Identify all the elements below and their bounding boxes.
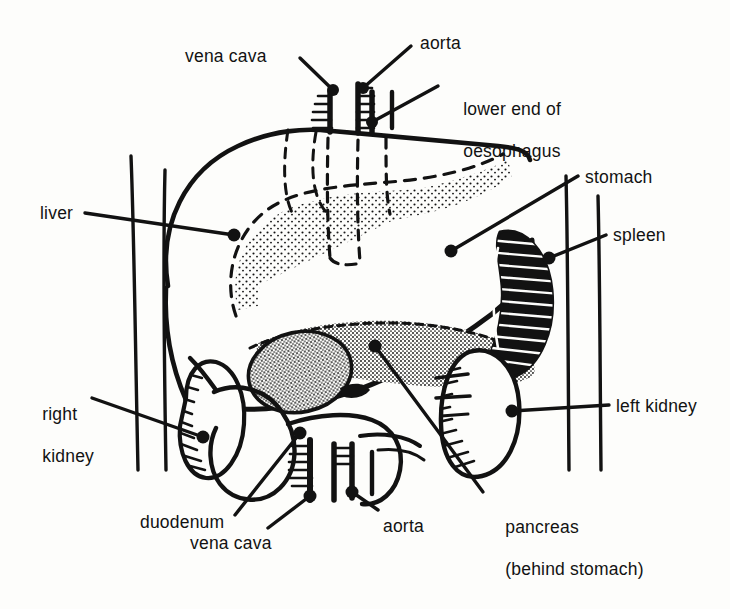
- label-oesophagus-line1: lower end of: [463, 99, 561, 119]
- label-duodenum: duodenum: [140, 512, 224, 533]
- leader-vena-cava-top: [300, 58, 339, 96]
- label-lower-end-of-oesophagus: lower end of oesophagus: [443, 78, 561, 183]
- label-vena-cava-bottom: vena cava: [190, 533, 272, 554]
- label-vena-cava-top: vena cava: [185, 46, 267, 67]
- label-liver: liver: [40, 203, 73, 224]
- label-stomach: stomach: [585, 167, 653, 188]
- label-pancreas: pancreas (behind stomach): [485, 496, 644, 601]
- leader-oesophagus: [366, 86, 438, 128]
- label-pancreas-line1: pancreas: [505, 517, 579, 537]
- label-aorta-top: aorta: [420, 33, 461, 54]
- label-aorta-bottom: aorta: [383, 516, 424, 537]
- leader-aorta-top: [357, 46, 411, 94]
- diagram-page: vena cava aorta lower end of oesophagus …: [0, 0, 730, 609]
- label-spleen: spleen: [613, 225, 666, 246]
- label-left-kidney: left kidney: [616, 396, 697, 417]
- label-right-kidney: right kidney: [22, 383, 94, 488]
- label-pancreas-line2: (behind stomach): [505, 559, 643, 579]
- label-right-kidney-line1: right: [42, 404, 77, 424]
- leader-spleen: [543, 235, 607, 265]
- label-oesophagus-line2: oesophagus: [463, 141, 560, 161]
- label-right-kidney-line2: kidney: [42, 446, 94, 466]
- leader-vena-cava-bottom: [268, 490, 317, 529]
